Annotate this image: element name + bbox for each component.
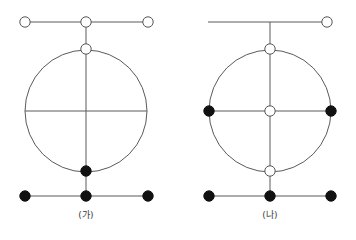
diagram-caption-ga: (가) [56, 208, 116, 221]
node-ga-top-bar-left-open [20, 17, 30, 27]
node-na-ring-center-open [265, 106, 275, 116]
node-na-bottom-bar-left-filled [204, 191, 214, 201]
node-ga-ring-bottom-filled [81, 166, 91, 176]
node-na-ring-left-filled [204, 106, 214, 116]
diagram-ga [20, 17, 153, 201]
diagram-groups [20, 17, 336, 201]
diagram-svg [0, 0, 356, 240]
diagram-caption-na: (나) [240, 208, 300, 221]
node-ga-bottom-bar-left-filled [20, 191, 30, 201]
node-ga-top-bar-center-open [81, 17, 91, 27]
node-na-ring-bottom-open [265, 166, 275, 176]
node-ga-bottom-bar-center-filled [81, 191, 91, 201]
figure-canvas: (가) (나) [0, 0, 356, 240]
node-ga-top-bar-right-open [143, 17, 153, 27]
node-na-top-bar-right-open [322, 17, 332, 27]
node-na-ring-top-open [265, 44, 275, 54]
node-na-bottom-bar-right-filled [326, 191, 336, 201]
node-na-bottom-bar-center-filled [265, 191, 275, 201]
diagram-na [204, 17, 336, 201]
node-ga-ring-top-open [81, 44, 91, 54]
node-ga-bottom-bar-right-filled [143, 191, 153, 201]
node-na-ring-right-filled [326, 106, 336, 116]
